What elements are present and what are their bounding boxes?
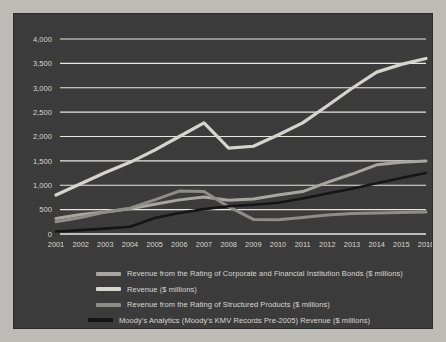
x-axis-tick-label: 2001 <box>48 240 64 249</box>
legend-color-swatch <box>88 318 113 322</box>
legend-item-label: Revenue from the Rating of Structured Pr… <box>127 300 330 309</box>
y-axis-tick-label: 500 <box>39 205 52 214</box>
legend-color-swatch <box>96 303 121 307</box>
legend-item-label: Revenue ($ millions) <box>127 285 197 294</box>
x-axis-tick-label: 2013 <box>344 240 360 249</box>
x-axis-tick-label: 2004 <box>122 240 138 249</box>
x-axis-tick-label: 2012 <box>319 240 335 249</box>
x-axis-tick-label: 2002 <box>72 240 88 249</box>
y-axis-tick-label: 3,500 <box>33 59 52 68</box>
legend-color-swatch <box>96 272 121 276</box>
x-axis-tick-label: 2007 <box>196 240 212 249</box>
y-axis-tick-label: 0 <box>48 230 52 239</box>
legend-item[interactable]: Revenue from the Rating of Structured Pr… <box>14 297 433 313</box>
screenshot-root: 05001,0001,5002,0002,5003,0003,5004,000 … <box>0 0 446 342</box>
chart-panel: 05001,0001,5002,0002,5003,0003,5004,000 … <box>13 13 433 329</box>
x-axis-tick-label: 2011 <box>295 240 311 249</box>
x-axis-tick-label: 2015 <box>393 240 409 249</box>
y-axis-tick-label: 4,000 <box>33 35 52 44</box>
legend-item[interactable]: Moody's Analytics (Moody's KMV Records P… <box>14 313 433 329</box>
legend-item-label: Revenue from the Rating of Corporate and… <box>127 269 403 278</box>
y-axis-tick-labels: 05001,0001,5002,0002,5003,0003,5004,000 <box>33 35 52 239</box>
x-axis-tick-label: 2006 <box>171 240 187 249</box>
legend-item[interactable]: Revenue from the Rating of Corporate and… <box>14 266 433 282</box>
x-axis-tick-label: 2016 <box>418 240 433 249</box>
series-line <box>56 59 426 196</box>
x-axis-tick-label: 2009 <box>245 240 261 249</box>
x-axis-tick-labels: 2001200220032004200520062007200820092010… <box>48 240 433 249</box>
y-axis-tick-label: 1,500 <box>33 157 52 166</box>
x-axis-tick-label: 2003 <box>97 240 113 249</box>
line-chart-svg: 05001,0001,5002,0002,5003,0003,5004,000 … <box>14 14 433 264</box>
series-line <box>56 173 426 232</box>
y-axis-tick-label: 1,000 <box>33 181 52 190</box>
y-axis-tick-label: 2,500 <box>33 108 52 117</box>
y-axis-tick-label: 3,000 <box>33 84 52 93</box>
x-axis-tick-label: 2014 <box>368 240 384 249</box>
legend-color-swatch <box>96 287 121 291</box>
legend-item[interactable]: Revenue ($ millions) <box>14 282 433 298</box>
plot-area: 05001,0001,5002,0002,5003,0003,5004,000 … <box>14 14 433 264</box>
series-lines-group <box>56 59 426 232</box>
x-axis-tick-label: 2005 <box>146 240 162 249</box>
chart-legend: Revenue from the Rating of Corporate and… <box>14 266 433 328</box>
x-axis-tick-label: 2008 <box>220 240 236 249</box>
y-axis-tick-label: 2,000 <box>33 132 52 141</box>
x-axis-tick-label: 2010 <box>270 240 286 249</box>
legend-item-label: Moody's Analytics (Moody's KMV Records P… <box>119 316 370 325</box>
